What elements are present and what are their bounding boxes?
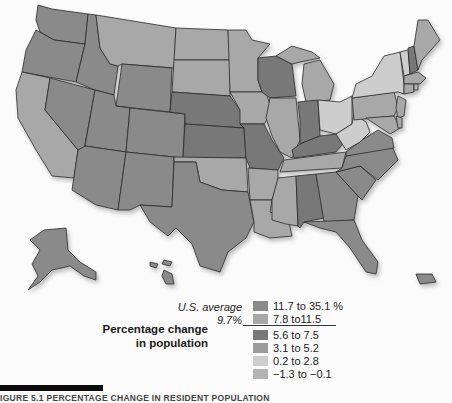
legend-item: 11.7 to 35.1 %: [253, 300, 343, 312]
legend-label: 0.2 to 2.8: [273, 355, 319, 367]
legend-label: −1.3 to −0.1: [273, 368, 332, 380]
average-divider: [243, 325, 336, 326]
legend-swatch: [253, 369, 268, 379]
legend-title-line2: in population: [64, 336, 208, 350]
legend-label: 7.8 to11.5: [273, 313, 321, 325]
legend-swatch: [253, 343, 268, 353]
legend-label: 5.6 to 7.5: [273, 329, 319, 341]
legend-item: −1.3 to −0.1: [253, 368, 332, 380]
legend-title-line1: Percentage change: [64, 322, 208, 336]
legend-label: 3.1 to 5.2: [273, 342, 319, 354]
caption-rule: [0, 385, 103, 391]
legend-item: 7.8 to11.5: [253, 313, 321, 325]
legend-item: 0.2 to 2.8: [253, 355, 319, 367]
legend-swatch: [253, 356, 268, 366]
legend-item: 3.1 to 5.2: [253, 342, 319, 354]
legend-swatch: [253, 314, 268, 324]
legend-title: Percentage change in population: [64, 322, 208, 350]
legend-item: 5.6 to 7.5: [253, 329, 319, 341]
legend-swatch: [253, 301, 268, 311]
legend-label: 11.7 to 35.1 %: [273, 300, 343, 312]
figure-caption: IGURE 5.1 PERCENTAGE CHANGE IN RESIDENT …: [0, 393, 270, 403]
legend-swatch: [253, 330, 268, 340]
us-average-label: U.S. average: [150, 301, 242, 314]
